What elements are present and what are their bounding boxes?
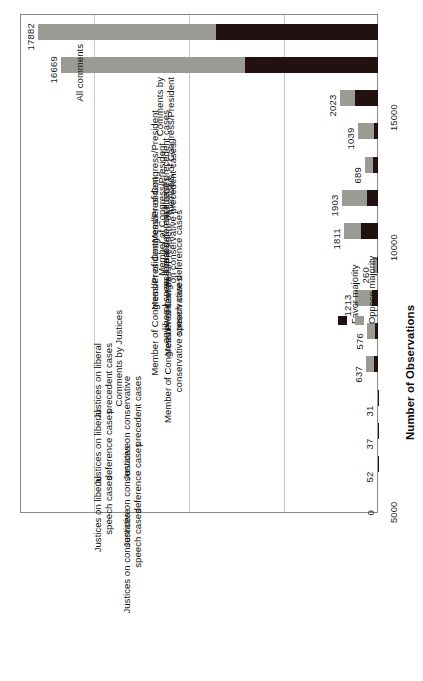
bar-value-label: 689 — [352, 167, 362, 183]
bar-value-label: 2023 — [327, 95, 337, 117]
bar-value-label: 576 — [355, 333, 365, 349]
bar-1 — [38, 24, 378, 40]
bar-segment-favor — [373, 157, 378, 173]
bar-value-label: 1903 — [329, 195, 339, 217]
bar-segment-favor — [355, 90, 378, 106]
bar-chart-figure: All commentsComments by members of Congr… — [0, 0, 423, 681]
bar-7 — [344, 223, 378, 239]
bar-segment-favor — [367, 190, 378, 206]
legend-swatch-favor — [338, 316, 347, 325]
bar-segment-oppose — [365, 157, 374, 173]
bar-value-label: 16669 — [49, 56, 59, 83]
bar-value-label: 17882 — [26, 23, 36, 50]
bar-value-label: 0 — [366, 510, 376, 515]
bar-13 — [377, 423, 378, 439]
bar-value-label: 31 — [365, 405, 375, 416]
bar-4 — [358, 123, 378, 139]
bar-5 — [365, 157, 378, 173]
bar-2 — [61, 57, 378, 73]
bar-segment-oppose — [344, 223, 361, 239]
bar-segment-oppose — [342, 190, 367, 206]
legend-item-oppose: Oppose majority — [355, 316, 423, 329]
bar-segment-oppose — [358, 123, 374, 139]
bar-value-label: 637 — [353, 366, 363, 382]
bar-value-label: 1213 — [342, 294, 352, 316]
tick-label-15000: 15000 — [389, 104, 399, 131]
bar-3 — [340, 90, 378, 106]
bar-value-label: 1039 — [346, 128, 356, 150]
bar-14 — [377, 456, 378, 472]
bar-value-label: 260 — [361, 267, 371, 283]
legend-label-oppose: Oppose majority — [366, 256, 377, 324]
bar-segment-favor — [377, 257, 378, 273]
bar-segment-oppose — [340, 90, 355, 106]
bar-segment-favor — [245, 57, 378, 73]
bar-segment-oppose — [38, 24, 215, 40]
bar-segment-oppose — [61, 57, 245, 73]
bar-value-label: 52 — [365, 472, 375, 483]
bar-series-layer — [20, 14, 378, 513]
bar-segment-favor — [361, 223, 378, 239]
bar-segment-favor — [216, 24, 378, 40]
bar-value-label: 37 — [365, 438, 375, 449]
bar-12 — [377, 390, 378, 406]
bar-6 — [342, 190, 378, 206]
tick-label-10000: 10000 — [389, 234, 399, 261]
tick-label-5000: 5000 — [389, 502, 399, 523]
bar-segment-favor — [374, 123, 378, 139]
category-label: Justices on conservative speech cases — [121, 509, 144, 614]
legend-swatch-oppose — [355, 316, 364, 325]
bar-value-label: 1811 — [331, 228, 341, 249]
